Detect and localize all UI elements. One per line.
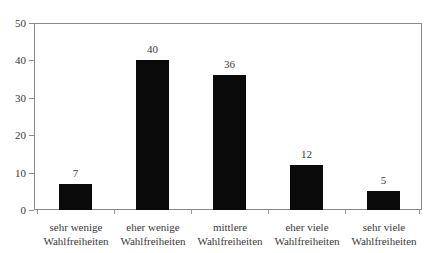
xcat-label-eher-viele: eher viele Wahlfreiheiten xyxy=(267,220,347,248)
xtick-mark-4 xyxy=(345,210,346,214)
bar-eher-wenige[interactable] xyxy=(136,60,169,210)
xcat-label-sehr-wenige: sehr wenige Wahlfreiheiten xyxy=(36,220,116,248)
bar-sehr-wenige[interactable] xyxy=(59,184,92,210)
xcat-line2: Wahlfreiheiten xyxy=(190,234,270,248)
ytick-label-0: 0 xyxy=(0,205,26,216)
xcat-line2: Wahlfreiheiten xyxy=(113,234,193,248)
xcat-line1: eher wenige xyxy=(113,220,193,234)
ytick-label-30: 30 xyxy=(0,93,26,104)
ytick-label-40: 40 xyxy=(0,55,26,66)
ytick-mark-20 xyxy=(29,135,34,136)
bar-mittlere[interactable] xyxy=(213,75,246,210)
xcat-line2: Wahlfreiheiten xyxy=(267,234,347,248)
bar-value-mittlere: 36 xyxy=(213,59,246,70)
xcat-label-mittlere: mittlere Wahlfreiheiten xyxy=(190,220,270,248)
ytick-label-50: 50 xyxy=(0,18,26,29)
xcat-line1: eher viele xyxy=(267,220,347,234)
xtick-mark-0 xyxy=(37,210,38,214)
bar-value-eher-viele: 12 xyxy=(290,149,323,160)
xcat-label-sehr-viele: sehr viele Wahlfreiheiten xyxy=(344,220,424,248)
bar-value-eher-wenige: 40 xyxy=(136,44,169,55)
xcat-line1: sehr wenige xyxy=(36,220,116,234)
ytick-mark-0 xyxy=(29,210,34,211)
xcat-line2: Wahlfreiheiten xyxy=(36,234,116,248)
xcat-line1: sehr viele xyxy=(344,220,424,234)
xcat-line2: Wahlfreiheiten xyxy=(344,234,424,248)
xtick-mark-3 xyxy=(268,210,269,214)
ytick-mark-40 xyxy=(29,60,34,61)
ytick-mark-50 xyxy=(29,23,34,24)
bar-sehr-viele[interactable] xyxy=(367,191,400,210)
bar-chart: 50 40 30 20 10 0 7 40 36 12 5 sehr wenig… xyxy=(0,0,439,253)
xcat-label-eher-wenige: eher wenige Wahlfreiheiten xyxy=(113,220,193,248)
ytick-mark-10 xyxy=(29,173,34,174)
bar-value-sehr-viele: 5 xyxy=(367,175,400,186)
xcat-line1: mittlere xyxy=(190,220,270,234)
xtick-mark-5 xyxy=(419,210,420,214)
xtick-mark-1 xyxy=(114,210,115,214)
bar-value-sehr-wenige: 7 xyxy=(59,168,92,179)
ytick-mark-30 xyxy=(29,98,34,99)
xtick-mark-2 xyxy=(191,210,192,214)
ytick-label-20: 20 xyxy=(0,130,26,141)
ytick-label-10: 10 xyxy=(0,168,26,179)
bar-eher-viele[interactable] xyxy=(290,165,323,210)
